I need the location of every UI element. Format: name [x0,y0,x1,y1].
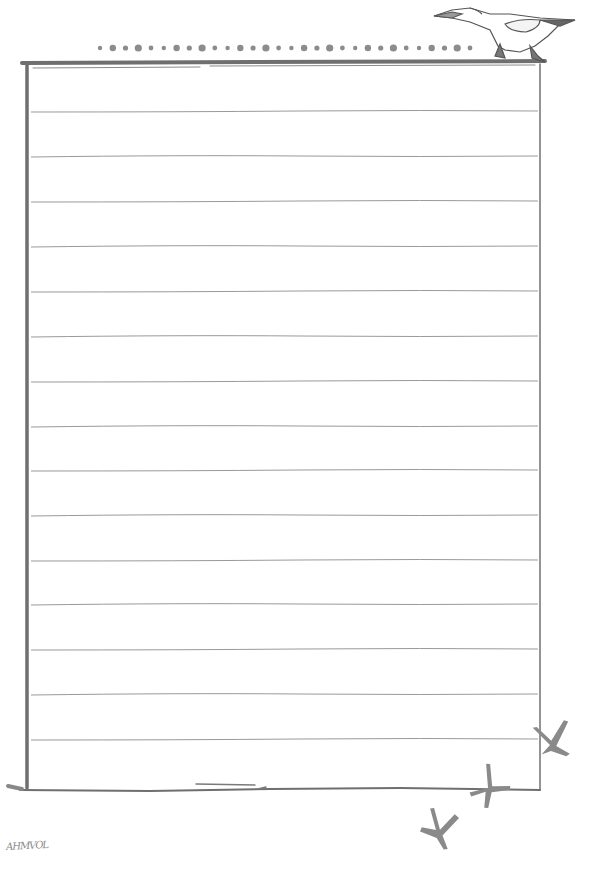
ornament-dot [417,46,421,50]
ornament-dot [149,46,154,51]
ornament-dot [365,45,371,51]
ruled-line [31,560,538,562]
ruled-line [31,426,538,427]
page-artwork [0,0,593,872]
ornament-dot [468,46,473,51]
ruled-line [31,470,538,472]
ornament-dot [262,44,269,51]
ornament-dot [212,46,217,51]
ornament-dot [404,46,409,51]
ornament-dot [276,46,281,51]
ornament-dot [289,46,293,50]
ruled-line [31,694,538,695]
ornament-dot [199,44,206,51]
dot-border [98,44,473,51]
ornament-dot [454,44,461,51]
ornament-dot [110,45,116,51]
ruled-line [31,291,538,293]
artist-signature: AHMVOL [6,839,49,852]
ruled-line [31,604,538,605]
stationery-page: AHMVOL [0,0,593,872]
ornament-dot [123,45,128,50]
ornament-dot [162,46,166,50]
ruled-line [31,649,538,651]
ruled-line [31,381,538,383]
ornament-dot [340,46,345,51]
ornament-dot [301,45,307,51]
ornament-dot [390,44,397,51]
ornament-dot [353,46,357,50]
ruled-line [31,156,538,157]
ornament-dot [135,44,142,51]
ornament-dot [187,45,192,50]
ornament-dot [251,45,256,50]
ruled-line [31,336,538,337]
ornament-dot [314,45,319,50]
ruled-line [31,515,538,516]
ornament-dot [173,45,179,51]
ornament-dot [237,45,243,51]
ornament-dot [378,45,383,50]
gannet-bird-icon [434,8,575,62]
ruled-line [31,201,538,203]
ornament-dot [442,45,447,50]
ruled-line [31,739,538,741]
ruled-line [31,111,538,113]
ornament-dot [98,46,102,50]
ruled-lines [31,111,538,741]
ornament-dot [225,46,229,50]
ornament-dot [429,45,435,51]
bird-footprints-icon [418,720,574,852]
ornament-dot [326,44,333,51]
ruled-line [31,246,538,247]
